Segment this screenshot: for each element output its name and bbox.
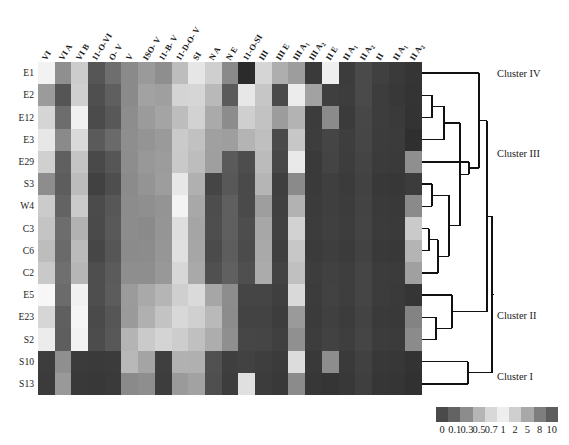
heatmap-cell [238, 306, 255, 329]
heatmap-cell [288, 84, 305, 107]
heatmap-cell [71, 173, 88, 196]
heatmap-cell [105, 306, 122, 329]
heatmap-cell [305, 373, 322, 395]
heatmap-cell [238, 351, 255, 374]
heatmap-cell [88, 306, 105, 329]
heatmap-cell [389, 351, 406, 374]
column-label: V [124, 52, 135, 62]
heatmap-cell [339, 351, 356, 374]
heatmap-cell [222, 173, 239, 196]
heatmap-cell [88, 106, 105, 129]
heatmap-cell [138, 195, 155, 218]
heatmap-cell [188, 328, 205, 351]
heatmap-cell [288, 351, 305, 374]
heatmap-cell [272, 106, 289, 129]
heatmap-cell [255, 373, 272, 395]
heatmap-cell [322, 106, 339, 129]
heatmap-cell [322, 262, 339, 285]
row-label: W4 [0, 201, 34, 211]
heatmap-cell [355, 129, 372, 152]
heatmap-cell [372, 284, 389, 307]
colorbar-swatch [534, 407, 546, 422]
heatmap-cell [55, 151, 72, 174]
heatmap-cell [55, 328, 72, 351]
heatmap-cell [405, 373, 422, 395]
column-label: SI [191, 50, 203, 62]
heatmap-cell [339, 328, 356, 351]
heatmap-cell [71, 284, 88, 307]
heatmap-cell [138, 262, 155, 285]
heatmap-cell [372, 62, 389, 85]
heatmap-cell [172, 151, 189, 174]
heatmap-cell [322, 306, 339, 329]
heatmap-cell [188, 240, 205, 263]
heatmap-cell [339, 62, 356, 85]
column-label: III A1 [291, 39, 310, 62]
heatmap-cell [88, 195, 105, 218]
heatmap-cell [322, 240, 339, 263]
heatmap-cell [105, 129, 122, 152]
heatmap-cell [322, 129, 339, 152]
row-label: S13 [0, 379, 34, 389]
heatmap-cell [55, 373, 72, 395]
heatmap-cell [389, 306, 406, 329]
heatmap-cell [71, 129, 88, 152]
heatmap-cell [355, 151, 372, 174]
heatmap-cell [272, 262, 289, 285]
row-label: E3 [0, 135, 34, 145]
heatmap-cell [355, 84, 372, 107]
heatmap-cell [372, 306, 389, 329]
heatmap-cell [372, 106, 389, 129]
heatmap-cell [405, 173, 422, 196]
heatmap-cell [55, 306, 72, 329]
heatmap-cell [172, 240, 189, 263]
heatmap-cell [71, 151, 88, 174]
heatmap-cell [305, 173, 322, 196]
heatmap-cell [272, 306, 289, 329]
dendrogram-svg [422, 62, 494, 395]
heatmap-cell [305, 84, 322, 107]
heatmap-cell [205, 151, 222, 174]
heatmap-cell [405, 240, 422, 263]
heatmap-cell [339, 129, 356, 152]
heatmap-cell [105, 284, 122, 307]
heatmap-cell [305, 306, 322, 329]
heatmap-cell [405, 84, 422, 107]
heatmap-cell [38, 240, 55, 263]
heatmap-cell [55, 217, 72, 240]
heatmap-cell [222, 306, 239, 329]
heatmap-cell [121, 262, 138, 285]
heatmap-cell [121, 173, 138, 196]
column-label: VI [41, 49, 54, 62]
heatmap-cell [222, 351, 239, 374]
heatmap-cell [71, 106, 88, 129]
heatmap-cell [188, 106, 205, 129]
heatmap-cell [205, 262, 222, 285]
heatmap-cell [138, 240, 155, 263]
heatmap-cell [372, 129, 389, 152]
heatmap-cell [121, 217, 138, 240]
heatmap-cell [272, 373, 289, 395]
heatmap-cell [272, 84, 289, 107]
heatmap-cell [238, 284, 255, 307]
heatmap-cell [105, 195, 122, 218]
heatmap-cell [38, 62, 55, 85]
colorbar-swatch [521, 407, 533, 422]
heatmap-cell [288, 262, 305, 285]
heatmap-cell [105, 173, 122, 196]
heatmap-cell [55, 284, 72, 307]
heatmap-cell [355, 62, 372, 85]
heatmap-cell [155, 328, 172, 351]
heatmap-cell [88, 328, 105, 351]
heatmap-cell [272, 151, 289, 174]
heatmap-cell [188, 217, 205, 240]
heatmap-cell [88, 62, 105, 85]
column-label: II A2 [408, 42, 425, 62]
heatmap-cell [355, 373, 372, 395]
heatmap-cell [172, 262, 189, 285]
heatmap-cell [172, 351, 189, 374]
heatmap-cell [188, 62, 205, 85]
heatmap-cell [272, 217, 289, 240]
heatmap-cell [322, 84, 339, 107]
heatmap-cell [222, 373, 239, 395]
